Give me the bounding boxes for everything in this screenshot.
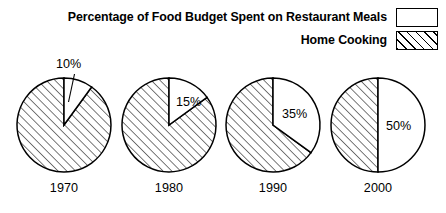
hatched-swatch-icon <box>396 31 438 50</box>
data-label-1990: 35% <box>282 107 307 121</box>
pie-1990: 35% <box>226 78 320 172</box>
pie-2000: 50% <box>331 78 425 172</box>
pie-group-1990: 35% 1990 <box>221 52 325 213</box>
pie-2000-svg: 50% <box>331 78 425 172</box>
pie-1970-svg <box>17 78 111 172</box>
year-label-2000: 2000 <box>326 181 430 195</box>
pie-group-1980: 15% 1980 <box>117 52 221 213</box>
legend-label-home-cooking: Home Cooking <box>301 34 396 46</box>
legend-row-restaurant-meals: Percentage of Food Budget Spent on Resta… <box>8 6 438 28</box>
year-label-1990: 1990 <box>221 181 325 195</box>
pie-1980-svg: 15% <box>122 78 216 172</box>
pie-1990-svg: 35% <box>226 78 320 172</box>
pie-1970 <box>17 78 111 172</box>
pie-group-1970: 10% 1970 <box>12 52 116 213</box>
data-label-1970: 10% <box>56 57 81 71</box>
wedge-home-cooking-2000 <box>331 78 378 172</box>
data-label-2000: 50% <box>386 119 411 133</box>
chart-canvas: Percentage of Food Budget Spent on Resta… <box>0 0 446 213</box>
legend: Percentage of Food Budget Spent on Resta… <box>0 0 446 52</box>
white-swatch-icon <box>396 8 438 27</box>
year-label-1980: 1980 <box>117 181 221 195</box>
legend-label-restaurant-meals: Percentage of Food Budget Spent on Resta… <box>68 11 396 23</box>
legend-row-home-cooking: Home Cooking <box>8 29 438 51</box>
pie-group-2000: 50% 2000 <box>326 52 430 213</box>
pie-chart-row: 10% 1970 15% <box>0 52 446 213</box>
year-label-1970: 1970 <box>12 181 116 195</box>
pie-1980: 15% <box>122 78 216 172</box>
data-label-1980: 15% <box>176 95 201 109</box>
